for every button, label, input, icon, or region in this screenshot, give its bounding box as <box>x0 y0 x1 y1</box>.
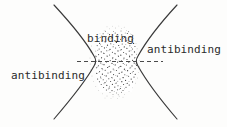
left-hyperbola-curve <box>54 5 96 119</box>
binding-antibinding-figure: binding antibinding antibinding <box>0 0 227 127</box>
binding-region-label: binding <box>87 33 134 44</box>
antibinding-region-label-left: antibinding <box>11 70 85 81</box>
antibinding-region-label-right: antibinding <box>147 44 221 55</box>
figure-canvas <box>0 0 227 127</box>
